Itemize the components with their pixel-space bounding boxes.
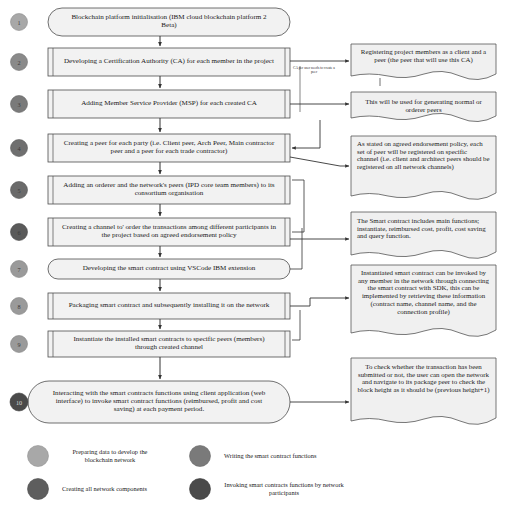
legend-swatch-writing-smart-contract — [190, 446, 211, 467]
step-marker-1 — [11, 14, 28, 31]
legend-swatch-preparing-data — [28, 446, 49, 467]
node-step-9[interactable] — [48, 331, 290, 357]
step-marker-5 — [11, 182, 28, 199]
note-generating-peers[interactable] — [351, 92, 496, 122]
node-step-7[interactable] — [48, 259, 290, 279]
connector-step5-rail — [292, 180, 304, 232]
connector-note2-step4 — [292, 120, 320, 148]
flowchart-vector-layer — [0, 0, 512, 510]
connector-step9-rail — [292, 310, 300, 340]
node-step-6[interactable] — [48, 218, 290, 246]
legend-swatch-invoking-functions — [190, 479, 211, 500]
step-marker-10 — [10, 393, 28, 411]
step-marker-9 — [11, 336, 28, 353]
connector-step7-rail — [290, 228, 302, 269]
connector-step8-note5 — [290, 298, 349, 306]
connector-step4-note3 — [290, 157, 349, 166]
flowchart-canvas: Blockchain platform initialisation (IBM … — [0, 0, 512, 510]
node-step-5[interactable] — [48, 176, 290, 204]
node-step-3[interactable] — [48, 90, 290, 118]
note-sdk-invocation[interactable] — [351, 265, 496, 336]
legend-swatches — [28, 446, 211, 500]
step-marker-2 — [11, 54, 28, 71]
step-marker-7 — [11, 261, 28, 278]
step-marker-8 — [11, 298, 28, 315]
step-marker-6 — [11, 224, 28, 241]
node-step-10[interactable] — [28, 381, 290, 423]
note-register-members[interactable] — [351, 44, 496, 80]
node-step-1[interactable] — [48, 8, 290, 36]
step-marker-4 — [11, 140, 28, 157]
node-step-4[interactable] — [48, 134, 290, 162]
step-marker-3 — [11, 96, 28, 113]
note-smart-contract-functions[interactable] — [351, 212, 496, 258]
legend-swatch-creating-components — [28, 479, 49, 500]
node-step-8[interactable] — [48, 293, 290, 319]
step-markers — [10, 14, 28, 412]
note-block-height[interactable] — [351, 358, 496, 424]
note-endorsement-policy[interactable] — [351, 136, 496, 199]
node-step-2[interactable] — [48, 48, 290, 76]
